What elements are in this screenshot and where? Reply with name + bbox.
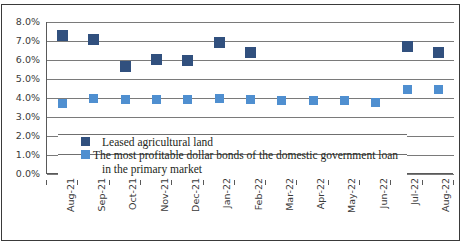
- data-point: [402, 41, 413, 52]
- gridline: [47, 117, 454, 118]
- chart-container: 8.0%7.0%6.0%5.0%4.0%3.0%2.0%1.0%0.0% Aug…: [0, 0, 464, 245]
- x-axis-label: Apr-22: [316, 178, 326, 238]
- data-point: [371, 98, 380, 107]
- chart-legend: Leased agricultural land The most profit…: [58, 133, 407, 177]
- x-axis-label: Feb-22: [254, 178, 264, 238]
- x-axis-tick: [46, 180, 47, 185]
- x-axis-tick: [77, 180, 78, 185]
- x-axis-label: Jan-22: [222, 178, 232, 238]
- data-point: [214, 37, 225, 48]
- legend-swatch-leased-land: [81, 137, 90, 146]
- x-axis-label: Mar-22: [285, 178, 295, 238]
- gridline: [47, 79, 454, 80]
- data-point: [89, 94, 98, 103]
- data-point: [433, 47, 444, 58]
- data-point: [120, 61, 131, 72]
- x-axis-label: May-22: [347, 178, 357, 238]
- data-point: [151, 54, 162, 65]
- x-axis-tick: [453, 180, 454, 185]
- x-axis-label: Dec-21: [191, 178, 201, 238]
- x-axis-tick: [203, 180, 204, 185]
- x-axis-label: Sep-21: [97, 178, 107, 238]
- x-axis-tick: [390, 180, 391, 185]
- x-axis: Aug-21Sep-21Oct-21Nov-21Dec-21Jan-22Feb-…: [46, 180, 453, 242]
- x-axis-label: Aug-22: [441, 178, 451, 238]
- x-axis-tick: [234, 180, 235, 185]
- y-axis-tick-label: 3.0%: [0, 112, 40, 122]
- data-point: [309, 96, 318, 105]
- data-point: [215, 94, 224, 103]
- y-axis-tick-label: 1.0%: [0, 150, 40, 160]
- y-axis-tick-label: 2.0%: [0, 131, 40, 141]
- y-axis-tick-label: 0.0%: [0, 169, 40, 179]
- data-point: [121, 95, 130, 104]
- legend-label-dollar-bonds: The most profitable dollar bonds of the …: [93, 149, 398, 161]
- y-axis-tick-label: 4.0%: [0, 93, 40, 103]
- x-axis-tick: [171, 180, 172, 185]
- legend-label-leased-land: Leased agricultural land: [102, 136, 213, 148]
- x-axis-tick: [328, 180, 329, 185]
- y-axis-tick-label: 8.0%: [0, 17, 40, 27]
- legend-rule-top: [58, 134, 407, 135]
- data-point: [434, 85, 443, 94]
- data-point: [58, 99, 67, 108]
- x-axis-label: Jun-22: [379, 178, 389, 238]
- x-axis-tick: [296, 180, 297, 185]
- y-axis-tick-label: 6.0%: [0, 55, 40, 65]
- data-point: [403, 85, 412, 94]
- data-point: [88, 34, 99, 45]
- y-axis: 8.0%7.0%6.0%5.0%4.0%3.0%2.0%1.0%0.0%: [0, 0, 44, 190]
- x-axis-label: Jul-22: [410, 178, 420, 238]
- legend-swatch-dollar-bonds: [81, 150, 90, 159]
- data-point: [245, 47, 256, 58]
- x-axis-tick: [265, 180, 266, 185]
- x-axis-tick: [359, 180, 360, 185]
- x-axis-tick: [422, 180, 423, 185]
- x-axis-label: Nov-21: [160, 178, 170, 238]
- y-axis-tick-label: 7.0%: [0, 36, 40, 46]
- y-axis-tick-label: 5.0%: [0, 74, 40, 84]
- x-axis-tick: [109, 180, 110, 185]
- data-point: [183, 95, 192, 104]
- gridline: [47, 60, 454, 61]
- legend-label-dollar-bonds-cont: in the primary market: [102, 163, 202, 175]
- x-axis-label: Aug-21: [66, 178, 76, 238]
- gridline: [47, 41, 454, 42]
- data-point: [57, 30, 68, 41]
- x-axis-tick: [140, 180, 141, 185]
- data-point: [246, 95, 255, 104]
- x-axis-label: Oct-21: [128, 178, 138, 238]
- data-point: [152, 95, 161, 104]
- gridline: [47, 22, 454, 23]
- data-point: [340, 96, 349, 105]
- data-point: [277, 96, 286, 105]
- data-point: [182, 55, 193, 66]
